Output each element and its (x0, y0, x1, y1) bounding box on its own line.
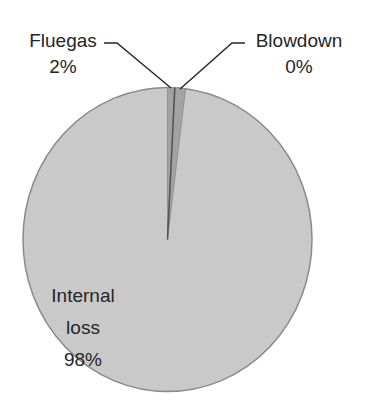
data-label-blowdown-name: Blowdown (244, 28, 354, 54)
data-label-fluegas: Fluegas 2% (22, 28, 104, 80)
data-label-blowdown: Blowdown 0% (244, 28, 354, 80)
data-label-internal-loss-percent: 98% (38, 344, 128, 376)
leader-line-fluegas (104, 43, 171, 88)
data-label-fluegas-percent: 2% (22, 54, 104, 80)
data-label-internal-loss-line1: Internal (38, 280, 128, 312)
pie-chart: Fluegas 2% Blowdown 0% Internal loss 98% (0, 0, 368, 420)
data-label-blowdown-percent: 0% (244, 54, 354, 80)
data-label-internal-loss-line2: loss (38, 312, 128, 344)
data-label-internal-loss: Internal loss 98% (38, 280, 128, 376)
data-label-fluegas-name: Fluegas (22, 28, 104, 54)
leader-line-blowdown (180, 43, 245, 89)
